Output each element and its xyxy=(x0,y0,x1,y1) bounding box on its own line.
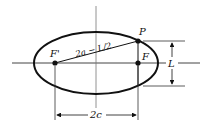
point-p xyxy=(135,38,140,43)
label-point-p: P xyxy=(138,26,146,37)
label-focus-left: F' xyxy=(49,48,60,59)
ellipse-diagram: F' F P 2a − L/2 L 2c xyxy=(0,0,212,130)
label-focal-segment: 2a − L/2 xyxy=(73,40,112,59)
focus-right-point xyxy=(135,60,140,65)
label-focal-distance: 2c xyxy=(89,109,102,120)
focus-left-point xyxy=(52,60,57,65)
label-focus-right: F xyxy=(141,51,150,62)
label-latus-height: L xyxy=(167,58,175,69)
